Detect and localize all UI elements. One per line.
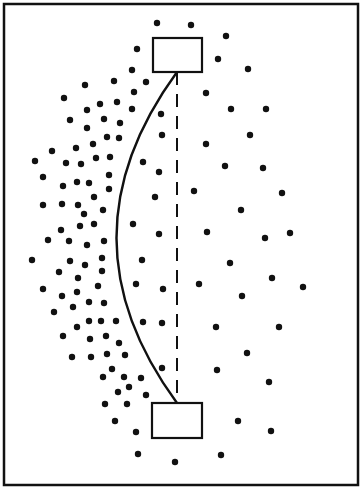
dot (100, 374, 106, 380)
dot (158, 111, 164, 117)
dot (203, 90, 209, 96)
dot (93, 155, 99, 161)
dot (59, 293, 65, 299)
dot (140, 159, 146, 165)
dot (90, 141, 96, 147)
dot (266, 379, 272, 385)
dot (100, 207, 106, 213)
dot (73, 145, 79, 151)
dot (45, 237, 51, 243)
dot (191, 188, 197, 194)
dot (143, 392, 149, 398)
dot (204, 229, 210, 235)
dot (107, 154, 113, 160)
dot (130, 221, 136, 227)
dot (84, 107, 90, 113)
dot (101, 116, 107, 122)
dot (121, 374, 127, 380)
dot (154, 20, 160, 26)
dot (84, 242, 90, 248)
dot (60, 183, 66, 189)
top-rectangle (153, 38, 202, 72)
dot (115, 389, 121, 395)
dot (133, 429, 139, 435)
dot (156, 231, 162, 237)
dot (88, 354, 94, 360)
dot (91, 194, 97, 200)
dot (159, 365, 165, 371)
dot (300, 284, 306, 290)
dot (159, 320, 165, 326)
dot (101, 238, 107, 244)
dot (40, 174, 46, 180)
dot (160, 286, 166, 292)
dot (223, 33, 229, 39)
dot (196, 281, 202, 287)
dot (78, 161, 84, 167)
dot (131, 89, 137, 95)
dot (81, 211, 87, 217)
dot (172, 459, 178, 465)
dot (82, 82, 88, 88)
dot (114, 99, 120, 105)
dot (156, 169, 162, 175)
dot (112, 418, 118, 424)
dot (82, 262, 88, 268)
dot (245, 66, 251, 72)
dot (263, 106, 269, 112)
dot (86, 318, 92, 324)
dot (75, 275, 81, 281)
dot (129, 67, 135, 73)
dot (67, 117, 73, 123)
dot (222, 163, 228, 169)
dot (86, 299, 92, 305)
dot (40, 286, 46, 292)
dot (56, 269, 62, 275)
dot (106, 172, 112, 178)
dot (214, 367, 220, 373)
dot (109, 366, 115, 372)
dot (67, 258, 73, 264)
dot (49, 148, 55, 154)
dot (104, 134, 110, 140)
dot (106, 186, 112, 192)
dot (101, 300, 107, 306)
dot (235, 418, 241, 424)
dot (213, 324, 219, 330)
dot (126, 384, 132, 390)
dot (87, 336, 93, 342)
dot (74, 179, 80, 185)
dot (75, 202, 81, 208)
dot (84, 125, 90, 131)
dot (70, 304, 76, 310)
dot (104, 351, 110, 357)
dot (91, 221, 97, 227)
dot (66, 238, 72, 244)
dot (29, 257, 35, 263)
dot (138, 375, 144, 381)
dot (203, 141, 209, 147)
dot (140, 319, 146, 325)
dot (269, 275, 275, 281)
dot (287, 230, 293, 236)
dot (279, 190, 285, 196)
dot (262, 235, 268, 241)
dot (74, 289, 80, 295)
dot (227, 260, 233, 266)
dot (133, 281, 139, 287)
dot (129, 106, 135, 112)
dot (135, 451, 141, 457)
dot (159, 132, 165, 138)
dot (134, 46, 140, 52)
dot (111, 78, 117, 84)
dot (239, 293, 245, 299)
dot (228, 106, 234, 112)
dot (69, 354, 75, 360)
dot (238, 207, 244, 213)
diagram-canvas (0, 0, 362, 491)
dot (102, 401, 108, 407)
dot (97, 101, 103, 107)
dot (268, 428, 274, 434)
dot (103, 333, 109, 339)
dot (59, 201, 65, 207)
